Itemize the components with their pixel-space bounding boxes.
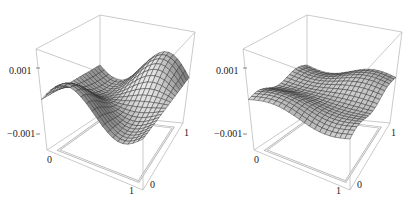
x-tick-1: 1 bbox=[336, 186, 341, 196]
surface-plot-right: 0.001 −0.001 0 1 0 1 bbox=[207, 0, 414, 210]
z-tick-top: 0.001 bbox=[216, 66, 239, 76]
x-tick-1: 1 bbox=[129, 186, 134, 196]
y-tick-0: 0 bbox=[357, 180, 362, 190]
z-tick-bottom: −0.001 bbox=[214, 129, 242, 139]
x-tick-0: 0 bbox=[47, 155, 52, 165]
z-tick-top: 0.001 bbox=[9, 66, 32, 76]
plot-canvas bbox=[207, 0, 414, 210]
surface-plot-left: 0.001 −0.001 0 1 0 1 bbox=[0, 0, 207, 210]
plot-canvas bbox=[0, 0, 207, 210]
z-tick-bottom: −0.001 bbox=[7, 129, 35, 139]
x-tick-0: 0 bbox=[254, 155, 259, 165]
y-tick-0: 0 bbox=[150, 180, 155, 190]
y-tick-1: 1 bbox=[184, 128, 189, 138]
y-tick-1: 1 bbox=[391, 128, 396, 138]
